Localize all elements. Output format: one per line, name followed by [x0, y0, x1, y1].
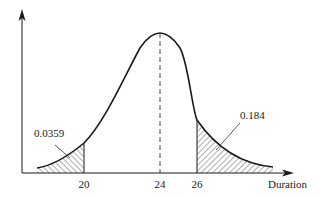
left-tail-shaded-region	[37, 143, 84, 173]
x-axis-label: Duration	[268, 178, 308, 190]
x-tick-26: 26	[192, 178, 204, 190]
normal-curve	[37, 33, 273, 168]
left-area-label: 0.0359	[34, 127, 65, 139]
x-tick-20: 20	[79, 178, 91, 190]
x-tick-24: 24	[155, 178, 167, 190]
left-area-leader	[55, 145, 70, 158]
normal-distribution-chart: 0.0359 0.184 20 24 26 Duration	[0, 0, 321, 198]
right-area-label: 0.184	[240, 109, 265, 121]
right-area-leader	[216, 123, 240, 150]
